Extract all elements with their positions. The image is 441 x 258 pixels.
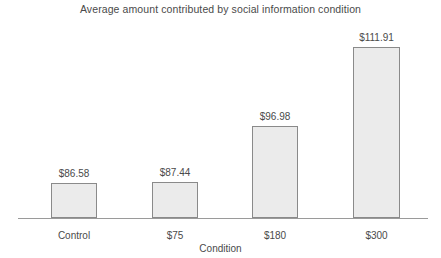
bar-rect <box>252 126 298 218</box>
x-tick-label: $75 <box>167 230 184 241</box>
bar-value-label: $87.44 <box>160 167 191 178</box>
bar-group: $96.98 $180 <box>252 126 298 218</box>
bar-group: $87.44 $75 <box>152 182 198 218</box>
bar-rect <box>51 183 97 218</box>
x-tick-label: $180 <box>264 230 286 241</box>
x-axis-title: Condition <box>0 243 441 254</box>
bar-chart: Average amount contributed by social inf… <box>0 0 441 258</box>
x-axis-line <box>18 218 428 219</box>
bar-value-label: $86.58 <box>59 168 90 179</box>
x-tick-label: $300 <box>365 230 387 241</box>
bar-group: $86.58 Control <box>51 183 97 218</box>
bar-value-label: $96.98 <box>260 111 291 122</box>
bar-rect <box>353 47 400 218</box>
bar-group: $111.91 $300 <box>353 47 400 218</box>
plot-area: $86.58 Control $87.44 $75 $96.98 $180 $1… <box>0 0 441 258</box>
bar-rect <box>152 182 198 218</box>
x-tick-label: Control <box>58 230 90 241</box>
bar-value-label: $111.91 <box>359 32 394 43</box>
